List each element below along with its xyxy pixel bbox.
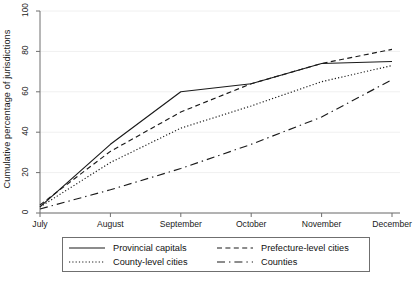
- legend-label: County-level cities: [113, 257, 188, 268]
- legend-row: County-level cities Counties: [68, 255, 364, 269]
- series-line-county-level-cities: [40, 66, 392, 207]
- y-axis-ticks: [36, 11, 40, 213]
- legend-swatch-long-dash-dot-icon: [216, 257, 254, 267]
- legend-entry-counties: Counties: [216, 255, 364, 269]
- y-axis-tick-label: 60: [20, 80, 30, 102]
- axis-lines: [40, 11, 400, 213]
- legend-label: Counties: [261, 257, 297, 268]
- series-line-prefecture-level-cities: [40, 49, 392, 205]
- series-line-provincial-capitals: [40, 62, 392, 207]
- chart-figure: Cumulative percentage of jurisdictions 0…: [0, 0, 417, 282]
- y-axis-tick-label: 0: [20, 201, 30, 223]
- data-series-layer: [40, 49, 392, 209]
- legend-label: Prefecture-level cities: [261, 243, 349, 254]
- legend-entry-county-level-cities: County-level cities: [68, 255, 216, 269]
- series-line-counties: [40, 80, 392, 209]
- legend-swatch-dotted-icon: [68, 257, 106, 267]
- y-axis-tick-label: 100: [20, 0, 30, 21]
- x-axis-tick-label: July: [32, 219, 47, 229]
- y-axis-tick-label: 20: [20, 161, 30, 183]
- y-axis-tick-label: 80: [20, 39, 30, 61]
- legend-label: Provincial capitals: [113, 243, 187, 254]
- x-axis-tick-label: August: [97, 219, 124, 229]
- y-axis-title: Cumulative percentage of jurisdictions: [2, 0, 12, 234]
- x-axis-ticks: [40, 213, 392, 217]
- legend-entry-provincial-capitals: Provincial capitals: [68, 241, 216, 255]
- legend-swatch-dashed-icon: [216, 243, 254, 253]
- legend-entry-prefecture-level-cities: Prefecture-level cities: [216, 241, 364, 255]
- gridlines: [40, 11, 400, 213]
- legend-swatch-solid-icon: [68, 243, 106, 253]
- chart-legend: Provincial capitals Prefecture-level cit…: [62, 237, 370, 272]
- y-axis-tick-label: 40: [20, 120, 30, 142]
- x-axis-tick-label: October: [236, 219, 267, 229]
- x-axis-tick-label: November: [302, 219, 342, 229]
- x-axis-tick-label: December: [372, 219, 412, 229]
- x-axis-tick-label: September: [160, 219, 202, 229]
- legend-row: Provincial capitals Prefecture-level cit…: [68, 241, 364, 255]
